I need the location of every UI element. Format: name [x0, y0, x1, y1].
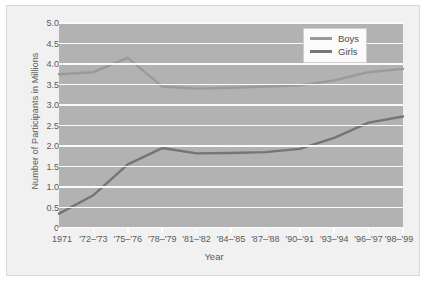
legend-item-boys[interactable]: Boys	[310, 32, 359, 45]
y-tick-label: 0.5	[31, 203, 59, 213]
x-tick-mark	[230, 228, 232, 233]
y-tick-label: 4.0	[31, 59, 59, 69]
y-tick-label: 3.0	[31, 100, 59, 110]
y-tick-label: 1.0	[31, 182, 59, 192]
x-axis-tick-marks	[59, 228, 403, 233]
x-tick-mark	[368, 228, 370, 233]
x-tick-label: '90–'91	[286, 234, 314, 244]
x-tick-mark	[161, 228, 163, 233]
x-tick-label: '81–'82	[182, 234, 210, 244]
gridline	[59, 84, 403, 86]
x-tick-mark	[333, 228, 335, 233]
y-tick-label: 2.0	[31, 141, 59, 151]
x-tick-mark	[196, 228, 198, 233]
x-tick-label: '87–'88	[251, 234, 279, 244]
x-tick-mark	[127, 228, 129, 233]
gridline	[59, 63, 403, 65]
gridline	[59, 186, 403, 188]
x-tick-mark	[402, 228, 404, 233]
y-tick-label: 0	[31, 223, 59, 233]
x-tick-label: '93–'94	[320, 234, 348, 244]
gridline	[59, 145, 403, 147]
legend-swatch-icon	[310, 50, 332, 53]
legend-label: Boys	[338, 34, 359, 44]
x-tick-mark	[58, 228, 60, 233]
x-tick-mark	[93, 228, 95, 233]
x-tick-label: '84–'85	[217, 234, 245, 244]
gridline	[59, 207, 403, 209]
legend-swatch-icon	[310, 37, 332, 40]
chart-figure: Number of Participants in Millions 00.51…	[6, 5, 420, 276]
y-tick-label: 3.5	[31, 80, 59, 90]
x-axis-title: Year	[7, 251, 421, 262]
x-tick-label: '72–'73	[79, 234, 107, 244]
x-tick-label: '98–'99	[385, 234, 413, 244]
chart-legend: BoysGirls	[303, 28, 367, 63]
gridline	[59, 166, 403, 168]
legend-label: Girls	[338, 47, 358, 57]
y-tick-label: 1.5	[31, 162, 59, 172]
y-tick-label: 4.5	[31, 39, 59, 49]
gridline	[59, 22, 403, 24]
y-tick-label: 5.0	[31, 18, 59, 28]
x-tick-label: '96–'97	[354, 234, 382, 244]
x-tick-label: 1971	[52, 234, 72, 244]
x-tick-label: '78–'79	[148, 234, 176, 244]
legend-item-girls[interactable]: Girls	[310, 45, 359, 58]
y-tick-label: 2.5	[31, 121, 59, 131]
x-tick-mark	[265, 228, 267, 233]
gridline	[59, 125, 403, 127]
gridline	[59, 104, 403, 106]
x-tick-label: '75–'76	[114, 234, 142, 244]
x-tick-mark	[299, 228, 301, 233]
x-axis-tick-labels: 1971'72–'73'75–'76'78–'79'81–'82'84–'85'…	[7, 234, 421, 250]
